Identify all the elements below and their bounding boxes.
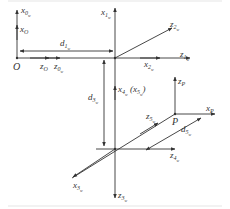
label-x2: x2w [143,59,154,72]
z5-arrow [140,123,158,134]
x3-axis [73,149,115,177]
label-d5: d5w [181,124,192,137]
label-z2: z2w [169,19,180,32]
base-frame [16,10,115,59]
label-x1: x1w [100,7,111,20]
label-zP: zP [177,76,186,87]
label-x3: x3w [72,180,83,193]
label-d3: d3w [88,92,99,105]
label-xO: xO [19,24,29,35]
label-z3: z3w [117,190,128,203]
label-z4: z4w [169,150,180,163]
label-xP: xP [205,103,214,114]
z5-line [72,114,175,178]
origin-point [16,57,18,59]
label-d1: d1w [60,38,71,51]
label-z5: z5w [145,111,156,124]
label-z1: z1w [179,49,190,62]
z2-axis [115,28,172,58]
label-zO: zO [39,61,49,72]
label-x0: x0w [20,5,31,18]
point-P [174,113,176,115]
label-P: P [171,116,178,127]
coordinate-frames-diagram: x0w xO O zO z0w d1w x1w z2w z1w x2w d3w … [0,0,230,209]
label-z0: z0w [53,61,64,74]
label-origin-O: O [13,61,20,72]
label-x4-x5: x4w (x5w) [117,84,146,97]
